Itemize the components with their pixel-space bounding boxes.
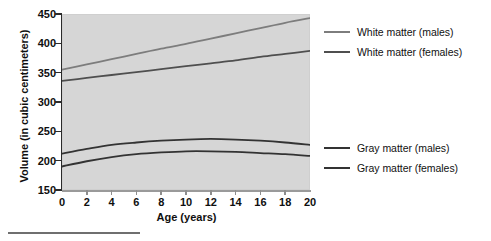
y-tick-label-150: 150 bbox=[22, 185, 56, 195]
x-tick-label-8: 8 bbox=[149, 196, 173, 208]
x-tick-label-0: 0 bbox=[50, 196, 74, 208]
legend-swatch-icon-1 bbox=[324, 51, 350, 53]
legend-label-3: Gray matter (females) bbox=[357, 162, 458, 174]
y-tick-mark-400 bbox=[55, 43, 62, 45]
x-tick-mark-6 bbox=[136, 190, 138, 195]
legend-label-1: White matter (females) bbox=[357, 46, 462, 58]
plot-area bbox=[62, 14, 310, 190]
series-line-0 bbox=[62, 18, 310, 70]
y-tick-mark-300 bbox=[55, 101, 62, 103]
y-tick-label-250: 250 bbox=[22, 126, 56, 136]
y-tick-mark-350 bbox=[55, 72, 62, 74]
series-line-1 bbox=[62, 51, 310, 81]
y-tick-label-450: 450 bbox=[22, 9, 56, 19]
legend-label-2: Gray matter (males) bbox=[357, 142, 449, 154]
legend-swatch-icon-0 bbox=[324, 31, 350, 33]
legend-entry-2[interactable]: Gray matter (males) bbox=[324, 141, 449, 155]
x-tick-label-18: 18 bbox=[273, 196, 297, 208]
data-curves bbox=[62, 14, 310, 190]
y-tick-mark-450 bbox=[55, 13, 62, 15]
x-tick-mark-14 bbox=[235, 190, 237, 195]
legend-entry-0[interactable]: White matter (males) bbox=[324, 25, 453, 39]
y-tick-mark-150 bbox=[55, 189, 62, 191]
legend-swatch-icon-2 bbox=[324, 147, 350, 149]
x-tick-label-2: 2 bbox=[75, 196, 99, 208]
x-tick-label-20: 20 bbox=[298, 196, 322, 208]
bottom-divider bbox=[8, 232, 140, 234]
y-tick-label-350: 350 bbox=[22, 68, 56, 78]
x-tick-label-14: 14 bbox=[224, 196, 248, 208]
x-tick-mark-16 bbox=[260, 190, 262, 195]
x-tick-label-10: 10 bbox=[174, 196, 198, 208]
x-tick-mark-18 bbox=[284, 190, 286, 195]
y-tick-mark-250 bbox=[55, 131, 62, 133]
chart-figure: Volume (in cubic centimeters) 1502002503… bbox=[0, 0, 491, 241]
legend-entry-1[interactable]: White matter (females) bbox=[324, 45, 462, 59]
y-tick-label-300: 300 bbox=[22, 97, 56, 107]
x-tick-label-4: 4 bbox=[100, 196, 124, 208]
x-tick-mark-12 bbox=[210, 190, 212, 195]
legend-swatch-icon-3 bbox=[324, 167, 350, 169]
x-tick-label-6: 6 bbox=[124, 196, 148, 208]
series-line-3 bbox=[62, 151, 310, 166]
legend-label-0: White matter (males) bbox=[357, 26, 453, 38]
y-tick-label-400: 400 bbox=[22, 38, 56, 48]
x-axis-label: Age (years) bbox=[62, 211, 311, 223]
x-tick-label-12: 12 bbox=[199, 196, 223, 208]
x-tick-mark-8 bbox=[160, 190, 162, 195]
legend-entry-3[interactable]: Gray matter (females) bbox=[324, 161, 458, 175]
x-tick-label-16: 16 bbox=[248, 196, 272, 208]
x-tick-mark-2 bbox=[86, 190, 88, 195]
x-tick-mark-10 bbox=[185, 190, 187, 195]
y-tick-label-200: 200 bbox=[22, 156, 56, 166]
x-tick-mark-4 bbox=[111, 190, 113, 195]
chart-legend: White matter (males)White matter (female… bbox=[324, 0, 491, 241]
y-tick-mark-200 bbox=[55, 160, 62, 162]
